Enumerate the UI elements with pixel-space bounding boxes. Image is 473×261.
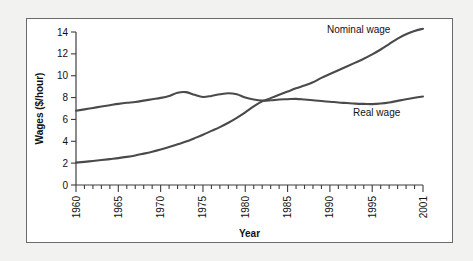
chart-frame: 0246810121419601965197019751980198519901… [26,18,453,243]
y-tick-label: 8 [62,92,68,103]
x-tick-label: 1980 [240,196,251,219]
series-label-real-wage: Real wage [353,107,401,118]
chart-figure: 0246810121419601965197019751980198519901… [0,0,473,261]
y-tick-label: 2 [62,158,68,169]
x-tick-label: 1995 [367,196,378,219]
y-tick-label: 4 [62,136,68,147]
x-tick-label: 1975 [197,196,208,219]
series-label-nominal-wage: Nominal wage [327,24,391,35]
x-tick-label: 1985 [282,196,293,219]
y-tick-label: 12 [57,48,69,59]
wages-line-chart: 0246810121419601965197019751980198519901… [27,19,452,242]
x-axis-title: Year [239,228,260,239]
y-tick-label: 0 [62,180,68,191]
y-tick-label: 6 [62,114,68,125]
x-tick-label: 2001 [418,196,429,219]
x-tick-label: 1960 [71,196,82,219]
x-tick-label: 1990 [324,196,335,219]
y-axis-title: Wages ($/hour) [34,73,45,145]
x-tick-label: 1970 [155,196,166,219]
y-tick-label: 10 [57,70,69,81]
series-line-nominal-wage [76,29,423,163]
x-tick-label: 1965 [113,196,124,219]
y-tick-label: 14 [57,27,69,38]
